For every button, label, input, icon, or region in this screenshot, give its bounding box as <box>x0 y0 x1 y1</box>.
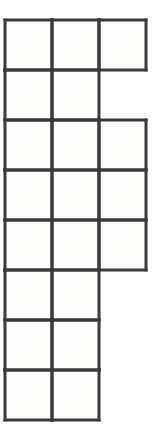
grid-cell <box>5 170 52 220</box>
grid-cell <box>99 220 146 270</box>
grid-cell <box>5 120 52 170</box>
grid-cell <box>52 220 99 270</box>
grid-cell <box>52 370 99 420</box>
grid-cell <box>99 20 146 70</box>
grid-cell <box>5 20 52 70</box>
grid-cell <box>52 20 99 70</box>
grid-diagram <box>0 0 161 441</box>
grid-cell <box>99 120 146 170</box>
grid-cell <box>5 370 52 420</box>
grid-cell <box>52 70 99 120</box>
grid-cell <box>99 170 146 220</box>
grid-cell <box>52 120 99 170</box>
grid-cell <box>5 270 52 320</box>
grid-cell <box>52 270 99 320</box>
grid-cell <box>5 220 52 270</box>
grid-cell <box>52 320 99 370</box>
polyomino-figure <box>0 0 161 441</box>
grid-cell <box>52 170 99 220</box>
grid-cell <box>5 320 52 370</box>
grid-cell <box>5 70 52 120</box>
